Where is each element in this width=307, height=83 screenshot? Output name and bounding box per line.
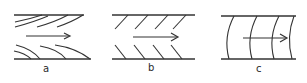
diagram-figure: a b bbox=[0, 0, 307, 83]
panel-a-drawing bbox=[0, 0, 103, 83]
upper-curve-stroke bbox=[57, 15, 83, 27]
upper-oblique-stroke bbox=[155, 15, 168, 29]
lower-curve-stroke bbox=[14, 51, 31, 59]
panel-a: a bbox=[0, 0, 103, 83]
curved-arc bbox=[289, 16, 294, 59]
lower-curve-stroke bbox=[55, 45, 90, 59]
upper-oblique-stroke bbox=[115, 15, 128, 29]
panel-c-label: c bbox=[256, 64, 262, 74]
curved-arc bbox=[227, 16, 234, 59]
lower-oblique-stroke bbox=[171, 45, 182, 59]
panel-b-drawing bbox=[103, 0, 206, 83]
lower-oblique-stroke bbox=[115, 45, 126, 59]
panel-a-label: a bbox=[43, 64, 49, 74]
upper-oblique-stroke bbox=[173, 15, 186, 29]
panel-c: c bbox=[206, 0, 307, 83]
panel-b: b bbox=[103, 0, 206, 83]
lower-oblique-stroke bbox=[134, 45, 145, 59]
panel-b-label: b bbox=[148, 63, 154, 73]
lower-oblique-stroke bbox=[153, 45, 164, 59]
upper-curve-stroke bbox=[15, 15, 42, 22]
lower-curve-stroke bbox=[40, 46, 66, 59]
upper-oblique-stroke bbox=[135, 15, 148, 29]
